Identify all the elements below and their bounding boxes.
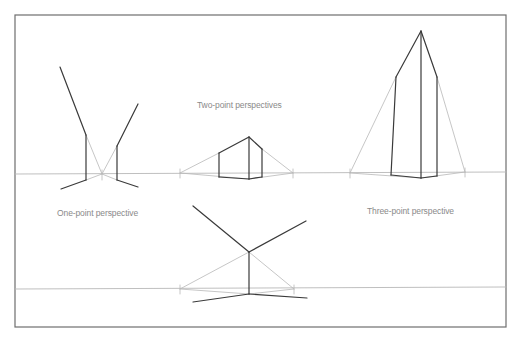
horizon-line: [15, 172, 506, 174]
construction-line: [437, 77, 465, 172]
construction-line: [180, 153, 219, 173]
object-edge: [421, 31, 437, 77]
horizon-lines: [15, 172, 506, 289]
construction-line: [249, 252, 294, 289]
object-edge: [60, 67, 86, 135]
object-edge: [219, 137, 249, 153]
construction-line: [262, 149, 293, 173]
object-edge: [249, 294, 307, 298]
object-edge: [193, 294, 249, 302]
construction-line: [86, 135, 102, 174]
object-edge: [249, 137, 262, 149]
horizon-line: [15, 287, 506, 289]
object-edge: [249, 177, 262, 179]
construction-line: [350, 77, 396, 173]
construction-line: [102, 146, 117, 174]
construction-line: [180, 252, 249, 289]
object-edge: [396, 31, 421, 77]
construction-line: [180, 289, 249, 294]
one-point-label: One-point perspective: [57, 208, 138, 218]
frame-border: [15, 15, 506, 327]
object-edge: [249, 221, 306, 252]
object-edge: [117, 180, 138, 187]
object-edge: [421, 176, 437, 178]
object-edge: [193, 206, 249, 252]
construction-line: [86, 174, 102, 180]
one-point-figure: [60, 67, 138, 189]
object-edge: [61, 180, 86, 189]
object-edge: [391, 77, 396, 175]
diagram-canvas: [0, 0, 514, 337]
perspective-diagram: One-point perspective Two-point perspect…: [0, 0, 514, 337]
two-point-label: Two-point perspectives: [197, 100, 282, 110]
construction-line: [249, 289, 294, 294]
object-edge: [117, 104, 138, 146]
three-point-label: Three-point perspective: [367, 206, 454, 216]
three-point-figure: [350, 31, 465, 178]
construction-line: [102, 174, 117, 180]
